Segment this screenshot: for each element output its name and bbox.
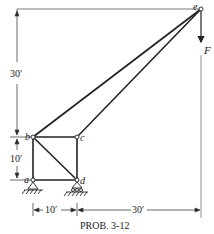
label-e: e [193,1,198,12]
joint-e [199,7,203,11]
label-c: c [80,132,85,143]
label-b: b [25,131,30,142]
truss-diagram: 30′ 10′ a b c d e F [0,0,214,234]
horizontal-dimension [33,203,200,216]
member-ce [77,9,201,137]
label-d: d [80,175,86,186]
truss-members [33,9,201,180]
joint-c [75,135,79,139]
dim-10-vertical: 10′ [10,153,22,164]
joint-b [31,135,35,139]
dim-10-horizontal: 10′ [45,204,57,215]
dim-30-vertical: 30′ [10,68,22,79]
member-be [33,9,201,137]
figure-caption: PROB. 3-12 [80,220,129,231]
load-label: F [203,44,211,56]
label-a: a [24,174,29,185]
dim-30-horizontal: 30′ [132,204,144,215]
member-bd [33,137,77,180]
